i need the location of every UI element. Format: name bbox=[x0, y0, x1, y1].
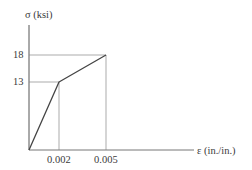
stress-strain-curve bbox=[29, 55, 106, 150]
y-tick-13: 13 bbox=[13, 77, 24, 88]
y-tick-18: 18 bbox=[13, 50, 24, 61]
x-tick-0002: 0.002 bbox=[47, 155, 71, 166]
y-axis-label: σ (ksi) bbox=[25, 10, 53, 21]
x-tick-0005: 0.005 bbox=[94, 155, 118, 166]
x-axis-label: ε (in./in.) bbox=[197, 146, 236, 157]
